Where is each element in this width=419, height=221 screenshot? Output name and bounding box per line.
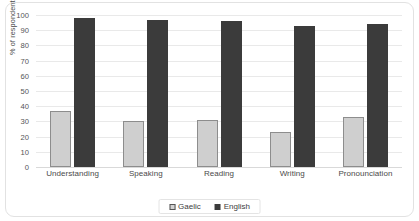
bar-group <box>329 15 402 167</box>
bar-english-reading[interactable] <box>221 21 242 167</box>
x-axis-category-label: Reading <box>182 169 255 185</box>
legend-item-english[interactable]: English <box>215 202 250 211</box>
y-axis-tick-label: 10 <box>21 147 29 156</box>
y-axis-tick-label: 20 <box>21 132 29 141</box>
gridline <box>36 167 402 168</box>
bar-english-writing[interactable] <box>294 26 315 167</box>
bar-gaelic-writing[interactable] <box>270 132 291 167</box>
x-axis-category-label: Understanding <box>36 169 109 185</box>
bar-gaelic-speaking[interactable] <box>123 121 144 167</box>
y-axis-tick-label: 60 <box>21 71 29 80</box>
y-axis-tick-labels: 1009080706050403020100 <box>6 15 32 167</box>
legend-label: English <box>224 202 250 211</box>
y-axis-tick-label: 80 <box>21 41 29 50</box>
y-axis-tick-label: 90 <box>21 26 29 35</box>
y-axis-tick-label: 30 <box>21 117 29 126</box>
x-axis-category-labels: UnderstandingSpeakingReadingWritingProno… <box>36 169 402 185</box>
x-axis-category-label: Writing <box>256 169 329 185</box>
x-axis-category-label: Pronounciation <box>329 169 402 185</box>
legend-label: Gaelic <box>178 202 201 211</box>
bar-groups <box>36 15 402 167</box>
y-axis-tick-label: 70 <box>21 56 29 65</box>
chart-container: % of respondents 1009080706050403020100 … <box>5 2 414 217</box>
gaelic-swatch-icon <box>169 204 175 210</box>
bar-group <box>256 15 329 167</box>
bar-gaelic-understanding[interactable] <box>50 111 71 167</box>
bar-english-pronounciation[interactable] <box>367 24 388 167</box>
y-axis-tick-label: 40 <box>21 102 29 111</box>
bar-english-understanding[interactable] <box>74 18 95 167</box>
y-axis-tick-label: 50 <box>21 87 29 96</box>
plot-area <box>36 15 402 167</box>
bar-group <box>36 15 109 167</box>
bar-gaelic-pronounciation[interactable] <box>343 117 364 167</box>
bar-group <box>109 15 182 167</box>
x-axis-category-label: Speaking <box>109 169 182 185</box>
bar-gaelic-reading[interactable] <box>197 120 218 167</box>
legend-item-gaelic[interactable]: Gaelic <box>169 202 201 211</box>
english-swatch-icon <box>215 204 221 210</box>
y-axis-tick-label: 0 <box>25 163 29 172</box>
y-axis-tick-label: 100 <box>16 11 29 20</box>
chart-legend: GaelicEnglish <box>158 199 261 214</box>
bar-group <box>182 15 255 167</box>
bar-english-speaking[interactable] <box>147 20 168 167</box>
